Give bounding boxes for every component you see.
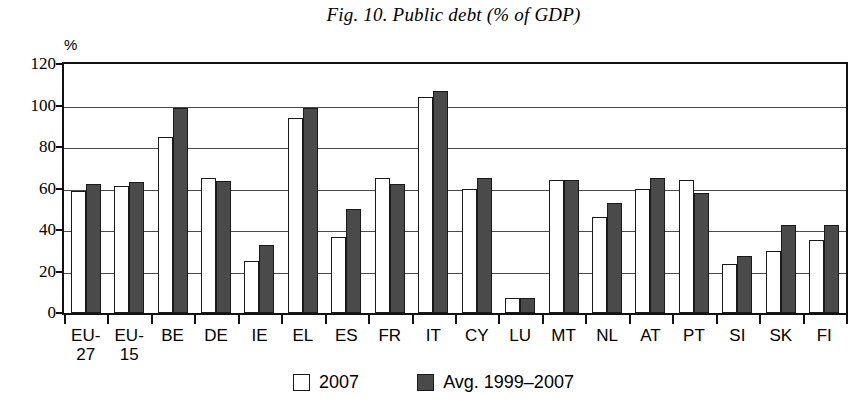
bar-ie-average	[259, 245, 274, 313]
x-axis-label-eu-15: EU- 15	[107, 326, 150, 364]
bar-group-ie	[238, 64, 281, 313]
legend-item-current[interactable]: 2007	[293, 372, 359, 393]
bar-si-average	[737, 256, 752, 313]
x-axis-label-eu-27: EU- 27	[64, 326, 107, 364]
bar-be-average	[173, 108, 188, 313]
bar-eu-15-average	[129, 182, 144, 313]
legend-label: 2007	[319, 372, 359, 393]
x-axis-label-nl: NL	[585, 326, 628, 345]
bar-at-current	[635, 189, 650, 314]
legend-swatch-icon-current	[293, 374, 310, 391]
legend-label: Avg. 1999–2007	[443, 372, 574, 393]
x-tick-mark-14	[672, 315, 674, 324]
bar-de-average	[216, 181, 231, 313]
bar-group-sk	[759, 64, 802, 313]
x-tick-mark-11	[542, 315, 544, 324]
x-tick-mark-1	[107, 315, 109, 324]
x-axis-label-ie: IE	[238, 326, 281, 345]
bar-pt-current	[679, 180, 694, 313]
bar-eu-27-average	[86, 184, 101, 313]
x-axis-label-lu: LU	[498, 326, 541, 345]
bar-sk-current	[766, 251, 781, 313]
bar-group-at	[629, 64, 672, 313]
bar-el-current	[288, 118, 303, 313]
figure-public-debt: Fig. 10. Public debt (% of GDP) % 020406…	[0, 0, 867, 412]
legend-item-average[interactable]: Avg. 1999–2007	[417, 372, 574, 393]
bar-group-fr	[368, 64, 411, 313]
y-tick-label-40: 40	[10, 221, 56, 238]
y-tick-label-80: 80	[10, 138, 56, 155]
chart-legend: 2007Avg. 1999–2007	[0, 372, 867, 393]
x-tick-mark-13	[629, 315, 631, 324]
y-tick-label-120: 120	[10, 55, 56, 72]
x-tick-mark-17	[803, 315, 805, 324]
x-axis-label-at: AT	[629, 326, 672, 345]
bar-group-it	[412, 64, 455, 313]
x-axis-label-pt: PT	[672, 326, 715, 345]
x-tick-mark-end	[846, 315, 848, 324]
bar-group-cy	[455, 64, 498, 313]
bar-fr-current	[375, 178, 390, 313]
x-axis-label-fr: FR	[368, 326, 411, 345]
bar-group-eu-15	[107, 64, 150, 313]
bar-it-current	[418, 97, 433, 313]
bar-mt-current	[549, 180, 564, 313]
y-tick-label-0: 0	[10, 304, 56, 321]
bar-cy-current	[462, 189, 477, 314]
x-axis-label-mt: MT	[542, 326, 585, 345]
bar-si-current	[722, 264, 737, 313]
bar-group-be	[151, 64, 194, 313]
bar-it-average	[433, 91, 448, 313]
bar-group-pt	[672, 64, 715, 313]
x-tick-mark-9	[455, 315, 457, 324]
x-axis-label-fi: FI	[803, 326, 846, 345]
y-axis-unit-label: %	[64, 36, 77, 53]
bar-group-lu	[498, 64, 541, 313]
x-tick-mark-15	[716, 315, 718, 324]
bar-fr-average	[390, 184, 405, 313]
bar-series-container	[64, 64, 846, 313]
bar-group-el	[281, 64, 324, 313]
bar-lu-average	[520, 298, 535, 313]
bar-at-average	[650, 178, 665, 313]
x-axis: EU- 27EU- 15BEDEIEELESFRITCYLUMTNLATPTSI…	[62, 315, 848, 371]
bar-el-average	[303, 108, 318, 313]
x-tick-mark-4	[238, 315, 240, 324]
bar-fi-current	[809, 240, 824, 313]
bar-nl-current	[592, 217, 607, 313]
bar-group-es	[325, 64, 368, 313]
bar-de-current	[201, 178, 216, 313]
bar-group-eu-27	[64, 64, 107, 313]
x-axis-label-sk: SK	[759, 326, 802, 345]
x-tick-mark-16	[759, 315, 761, 324]
x-axis-label-it: IT	[412, 326, 455, 345]
bar-group-de	[194, 64, 237, 313]
bar-lu-current	[505, 298, 520, 313]
bar-be-current	[158, 137, 173, 313]
x-tick-mark-5	[281, 315, 283, 324]
legend-swatch-icon-average	[417, 374, 434, 391]
x-axis-label-cy: CY	[455, 326, 498, 345]
y-tick-label-100: 100	[10, 97, 56, 114]
x-axis-label-el: EL	[281, 326, 324, 345]
bar-cy-average	[477, 178, 492, 313]
x-tick-mark-8	[412, 315, 414, 324]
bar-nl-average	[607, 203, 622, 313]
y-axis-tick-labels: 020406080100120	[4, 0, 56, 412]
x-tick-mark-0	[64, 315, 66, 324]
y-tick-label-60: 60	[10, 180, 56, 197]
x-axis-label-si: SI	[716, 326, 759, 345]
bar-pt-average	[694, 193, 709, 313]
bar-group-si	[716, 64, 759, 313]
figure-title: Fig. 10. Public debt (% of GDP)	[0, 4, 867, 26]
bar-es-current	[331, 237, 346, 313]
y-tick-label-20: 20	[10, 263, 56, 280]
x-axis-label-be: BE	[151, 326, 194, 345]
bar-group-nl	[585, 64, 628, 313]
bar-group-fi	[803, 64, 846, 313]
x-tick-mark-6	[325, 315, 327, 324]
bar-es-average	[346, 209, 361, 313]
x-tick-mark-3	[194, 315, 196, 324]
bar-mt-average	[564, 180, 579, 313]
bar-eu-15-current	[114, 186, 129, 313]
